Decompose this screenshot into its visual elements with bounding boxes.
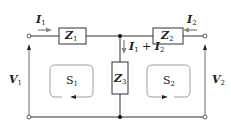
junction-bottom-dot: [118, 115, 122, 119]
terminal-bottom-right: [203, 115, 207, 119]
z3-label: Z3: [114, 73, 127, 86]
s1-loop-arrowhead-icon: [70, 95, 76, 99]
i2-label: I2: [187, 14, 197, 27]
terminal-top-right: [203, 34, 207, 38]
i1-label: I1: [36, 14, 46, 27]
v2-label: V2: [212, 74, 225, 87]
s2-label: S2: [163, 75, 175, 88]
i-sum-label: I1 + I2: [129, 41, 164, 54]
v1-arrowhead-icon: [27, 44, 31, 50]
terminal-top-left: [27, 34, 31, 38]
i2-arrowhead-icon: [183, 28, 189, 33]
s2-loop-arrowhead-icon: [162, 95, 168, 99]
z1-label: Z1: [65, 30, 78, 43]
i-sum-arrowhead-icon: [122, 48, 127, 54]
v2-arrowhead-icon: [203, 44, 207, 50]
v1-label: V1: [9, 74, 22, 87]
s1-label: S1: [66, 75, 78, 88]
terminal-bottom-left: [27, 115, 31, 119]
i1-arrowhead-icon: [46, 28, 52, 33]
junction-top-dot: [118, 34, 122, 38]
